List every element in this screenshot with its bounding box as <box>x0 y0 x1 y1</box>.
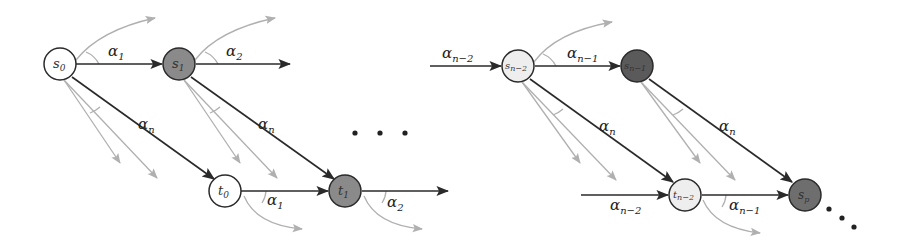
main-edges <box>72 64 792 195</box>
node-s-p: sp <box>789 179 821 211</box>
node-t1: t1 <box>329 175 361 207</box>
node-s0: s0 <box>44 48 76 80</box>
label-alpha-n: αn <box>719 117 736 137</box>
node-s1: s1 <box>163 48 195 80</box>
label-alpha-1: α1 <box>108 42 125 62</box>
ellipsis-end <box>826 206 856 229</box>
node-s-n-1: sn−1 <box>621 50 653 82</box>
ghost-edges <box>64 18 760 233</box>
ellipsis-middle <box>352 130 407 135</box>
label-alpha-n: αn <box>599 117 616 137</box>
label-alpha-n-1: αn−1 <box>567 44 598 64</box>
node-s-n-2: sn−2 <box>502 50 534 82</box>
label-alpha-n-2: αn−2 <box>610 196 641 216</box>
label-alpha-n: αn <box>138 115 155 135</box>
node-t-n-2: tn−2 <box>669 179 701 211</box>
label-alpha-2: α2 <box>226 42 243 62</box>
label-alpha-n-1: αn−1 <box>729 196 760 216</box>
sequence-diagram: s0 s1 t0 t1 sn−2 sn−1 tn−2 sp α1 α2 αn α… <box>0 0 897 247</box>
edge-labels: α1 α2 αn αn α1 α2 αn−2 αn−1 αn αn αn−2 α… <box>108 42 760 216</box>
label-alpha-2: α2 <box>387 193 404 213</box>
label-alpha-n: αn <box>258 115 275 135</box>
label-alpha-n-2: αn−2 <box>442 44 473 64</box>
label-alpha-1: α1 <box>267 191 284 211</box>
node-t0: t0 <box>209 175 241 207</box>
